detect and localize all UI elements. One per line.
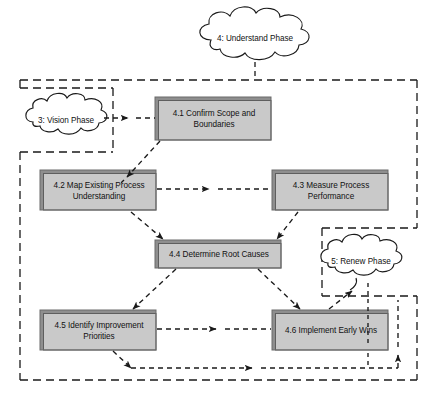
process-flow-diagram: 4: Understand Phase 3: Vision Phase 5: R… (0, 0, 434, 397)
arrow-44-to-46 (258, 269, 300, 309)
diagram-canvas (0, 0, 434, 397)
arrow-46-to-renew (329, 291, 352, 309)
arrow-43-to-44 (277, 212, 298, 239)
process-box-45[interactable] (40, 310, 156, 350)
process-box-44[interactable] (155, 240, 281, 268)
process-box-41[interactable] (155, 97, 271, 140)
cloud-understand-phase (200, 7, 309, 60)
process-box-46[interactable] (272, 310, 388, 350)
arrow-44-to-45 (133, 269, 176, 309)
arrow-42-to-44 (131, 212, 163, 239)
process-box-43[interactable] (272, 170, 388, 210)
cloud-vision-phase (26, 93, 107, 134)
process-box-42[interactable] (40, 170, 156, 210)
cloud-renew-phase (321, 234, 402, 290)
